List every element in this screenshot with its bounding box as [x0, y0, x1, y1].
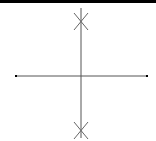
pole-zero-diagram	[0, 0, 156, 141]
real-axis-left-endpoint	[15, 75, 17, 77]
real-axis-right-endpoint	[146, 75, 148, 77]
